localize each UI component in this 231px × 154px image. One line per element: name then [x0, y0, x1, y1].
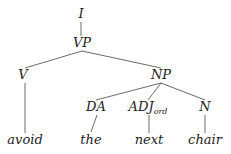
- node-chair: chair: [188, 132, 223, 147]
- edge-np-n: [161, 83, 205, 100]
- node-vp: VP: [73, 35, 91, 50]
- edge-vp-v: [25, 51, 82, 68]
- edge-da-the: [91, 115, 97, 132]
- parse-tree: IVPVNPDAADJordNavoidthenextchair: [0, 0, 231, 154]
- tree-nodes: IVPVNPDAADJordNavoidthenextchair: [7, 6, 222, 147]
- node-da: DA: [85, 99, 106, 114]
- node-avoid: avoid: [7, 132, 42, 147]
- node-np: NP: [150, 67, 171, 82]
- node-n: N: [198, 99, 211, 114]
- node-i: I: [77, 6, 84, 21]
- tree-edges: [25, 22, 205, 133]
- edge-np-da: [96, 83, 161, 100]
- node-v: V: [18, 67, 29, 82]
- node-adj: ADJord: [128, 99, 168, 116]
- node-next: next: [135, 132, 164, 147]
- node-the: the: [80, 132, 102, 147]
- edge-vp-np: [82, 51, 161, 68]
